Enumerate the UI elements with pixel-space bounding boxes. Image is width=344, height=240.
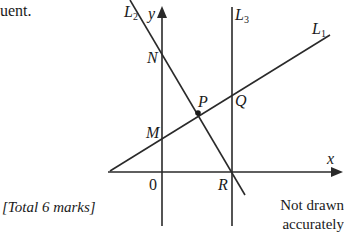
x-axis-label: x xyxy=(327,151,334,167)
question-diagram-stage: uent. L2 L3 L1 y x 0 N P Q M R xyxy=(0,0,344,240)
label-l2: L2 xyxy=(124,4,138,25)
point-q-label: Q xyxy=(235,93,247,109)
label-l1: L1 xyxy=(312,21,326,42)
point-n-label: N xyxy=(147,50,158,66)
total-marks: [Total 6 marks] xyxy=(2,199,96,216)
not-drawn-accurately-note: Not drawn accurately xyxy=(280,196,344,234)
note-line-2: accurately xyxy=(280,215,344,234)
point-r-label: R xyxy=(218,177,228,193)
point-p-dot xyxy=(195,110,201,116)
y-axis-label: y xyxy=(148,6,155,22)
origin-label: 0 xyxy=(149,177,157,193)
point-m-label: M xyxy=(146,125,159,141)
x-axis-arrow-icon xyxy=(331,167,343,177)
line-l1 xyxy=(110,35,330,171)
label-l3: L3 xyxy=(235,7,249,28)
y-axis-arrow-icon xyxy=(157,6,167,18)
note-line-1: Not drawn xyxy=(280,196,344,215)
point-p-label: P xyxy=(198,94,208,110)
